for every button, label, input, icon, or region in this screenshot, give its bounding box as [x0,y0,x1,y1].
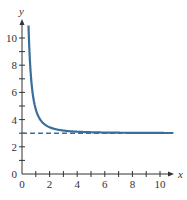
y-tick-label: 10 [6,32,18,44]
x-tick-label: 0 [19,178,25,190]
x-tick-label: 2 [47,178,53,190]
curve-line [28,25,173,133]
y-tick-label: 4 [12,114,18,126]
y-tick-label: 2 [12,141,18,153]
chart: 02468100246810 x y [0,0,187,200]
x-tick-label: 8 [130,178,136,190]
x-axis-label: x [177,168,183,180]
y-tick-label: 6 [12,86,18,98]
x-axis-arrow-icon [168,172,174,177]
y-tick-label: 0 [12,168,18,180]
x-tick-label: 6 [102,178,108,190]
series-group [22,25,174,133]
y-axis-label: y [18,5,24,17]
y-tick-label: 8 [12,59,18,71]
y-axis-arrow-icon [20,19,25,25]
x-tick-label: 10 [155,178,167,190]
x-tick-label: 4 [74,178,80,190]
